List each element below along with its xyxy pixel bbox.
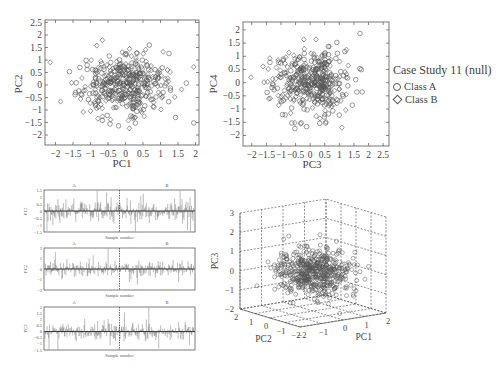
x-tick-label: 1 bbox=[337, 150, 342, 160]
y-tick-label: −1 bbox=[37, 223, 42, 228]
diamond-marker-icon bbox=[393, 95, 403, 105]
y-tick-label: −1.5 bbox=[25, 118, 42, 128]
y-tick-label: −0.5 bbox=[34, 335, 43, 340]
y-tick-label: 1.5 bbox=[36, 188, 42, 193]
figure-canvas: −2−1.5−1−0.500.511.522.521.510.50−0.5−1−… bbox=[0, 0, 496, 377]
z-tick-label: −1 bbox=[225, 285, 234, 295]
x-tick-label: −1 bbox=[276, 150, 286, 160]
y-tick-label: 1.5 bbox=[30, 43, 42, 53]
segment-label-b: B bbox=[165, 300, 168, 305]
scatter-pc1-pc2: −2−1.5−1−0.500.511.522.521.510.50−0.5−1−… bbox=[12, 18, 199, 170]
z-tick-label: −2 bbox=[225, 304, 234, 314]
x-tick-label: −1 bbox=[85, 149, 95, 159]
y-tick-label: 2.5 bbox=[30, 18, 42, 28]
scatter-pc3-pc4: −2−1.5−1−0.500.511.522.521.510.50−0.5−1−… bbox=[207, 22, 389, 170]
time-series-panel-3: 21.510.50−0.5−1−1.5ABSample numberPC3 bbox=[23, 300, 195, 358]
legend-label: Class B bbox=[405, 93, 437, 106]
y-tick-label: 0.5 bbox=[36, 323, 42, 328]
y-tick-label: 1.5 bbox=[228, 38, 240, 48]
x-axis-label: Sample number bbox=[105, 353, 134, 358]
y-tick-label: 1 bbox=[40, 195, 42, 200]
y-tick-label: 0.5 bbox=[228, 64, 240, 74]
y-tick-label: 1 bbox=[235, 51, 240, 61]
segment-label-a: A bbox=[72, 241, 76, 246]
x-axis-label: PC3 bbox=[303, 158, 322, 170]
y-axis-label: PC3 bbox=[23, 324, 28, 333]
y-tick-label: 1 bbox=[40, 256, 42, 261]
y-tick-label: 1 bbox=[40, 317, 42, 322]
y-tick-label: −2 bbox=[291, 330, 300, 340]
segment-label-a: A bbox=[72, 300, 76, 305]
y-tick-label: −0.5 bbox=[34, 216, 43, 221]
y-tick-label: 0 bbox=[40, 267, 43, 272]
y-tick-label: 0 bbox=[40, 329, 43, 334]
x-tick-label: 2.5 bbox=[377, 150, 389, 160]
x-axis-label: Sample number bbox=[105, 235, 134, 240]
legend: Case Study 11 (null) Class A Class B bbox=[393, 64, 492, 106]
y-tick-label: 0.5 bbox=[30, 68, 42, 78]
z-tick-label: 2 bbox=[230, 227, 234, 237]
x-tick-label: −1 bbox=[319, 327, 328, 337]
x-tick-label: 2 bbox=[193, 149, 198, 159]
x-tick-label: 0.5 bbox=[137, 149, 149, 159]
y-tick-label: 1 bbox=[249, 317, 253, 327]
x-tick-label: 1.5 bbox=[172, 149, 184, 159]
x-tick-label: −1.5 bbox=[64, 149, 81, 159]
y-tick-label: −2 bbox=[37, 288, 42, 293]
segment-label-b: B bbox=[165, 241, 168, 246]
circle-marker-icon bbox=[393, 83, 401, 91]
x-tick-label: −1.5 bbox=[258, 150, 275, 160]
y-tick-label: −2 bbox=[32, 130, 42, 140]
y-axis-label: PC4 bbox=[207, 74, 219, 93]
legend-title: Case Study 11 (null) bbox=[393, 64, 492, 77]
y-tick-label: 2 bbox=[40, 246, 42, 251]
y-tick-label: −0.5 bbox=[223, 91, 240, 101]
z-tick-label: 1 bbox=[230, 246, 234, 256]
y-tick-label: 1.5 bbox=[36, 311, 42, 316]
time-series-panels: 1.510.50−0.5−1−1.5ABSample numberPC1210−… bbox=[23, 183, 195, 358]
y-tick-label: −1 bbox=[37, 277, 42, 282]
y-tick-label: −1.5 bbox=[223, 117, 240, 127]
z-tick-label: 0 bbox=[230, 266, 234, 276]
x-tick-label: 1 bbox=[158, 149, 163, 159]
y-tick-label: −1.5 bbox=[34, 348, 43, 353]
y-tick-label: −2 bbox=[230, 130, 240, 140]
legend-label: Class A bbox=[404, 80, 436, 93]
z-tick-label: 3 bbox=[230, 208, 234, 218]
y-tick-label: 0 bbox=[264, 321, 268, 331]
z-axis-label: PC3 bbox=[210, 253, 220, 270]
legend-item-class-b: Class B bbox=[393, 93, 492, 106]
y-axis-label: PC2 bbox=[23, 265, 28, 273]
scatter-3d: 3210−1−2−2−1012210−1−2PC1PC2PC3 bbox=[210, 199, 390, 344]
y-tick-label: −1 bbox=[276, 326, 285, 336]
y-axis-label: PC2 bbox=[255, 334, 272, 344]
x-tick-label: −2 bbox=[247, 150, 257, 160]
y-axis-label: PC1 bbox=[23, 207, 28, 215]
y-tick-label: −0.5 bbox=[25, 93, 42, 103]
y-tick-label: 2 bbox=[40, 305, 42, 310]
x-tick-label: 1 bbox=[364, 320, 368, 330]
y-tick-label: 0 bbox=[37, 80, 42, 90]
y-tick-label: −1.5 bbox=[34, 230, 43, 235]
y-tick-label: −1 bbox=[37, 341, 42, 346]
y-tick-label: 1 bbox=[37, 55, 42, 65]
y-tick-label: 2 bbox=[234, 312, 238, 322]
y-tick-label: −1 bbox=[32, 105, 42, 115]
x-tick-label: 1.5 bbox=[348, 150, 360, 160]
y-tick-label: −1 bbox=[230, 104, 240, 114]
x-axis-label: Sample number bbox=[105, 293, 134, 298]
x-tick-label: 0 bbox=[343, 323, 347, 333]
legend-item-class-a: Class A bbox=[393, 80, 492, 93]
x-tick-label: 2 bbox=[386, 316, 390, 326]
y-tick-label: 2 bbox=[37, 30, 42, 40]
y-tick-label: 0.5 bbox=[36, 202, 42, 207]
x-tick-label: 2 bbox=[366, 150, 371, 160]
segment-label-a: A bbox=[72, 183, 76, 188]
y-tick-label: 2 bbox=[235, 25, 240, 35]
segment-label-b: B bbox=[165, 183, 168, 188]
x-axis-label: PC1 bbox=[356, 332, 373, 342]
x-tick-label: −2 bbox=[50, 149, 60, 159]
time-series-panel-2: 210−1−2ABSample numberPC2 bbox=[23, 241, 195, 298]
y-tick-label: 0 bbox=[40, 209, 43, 214]
time-series-panel-1: 1.510.50−0.5−1−1.5ABSample numberPC1 bbox=[23, 183, 195, 240]
